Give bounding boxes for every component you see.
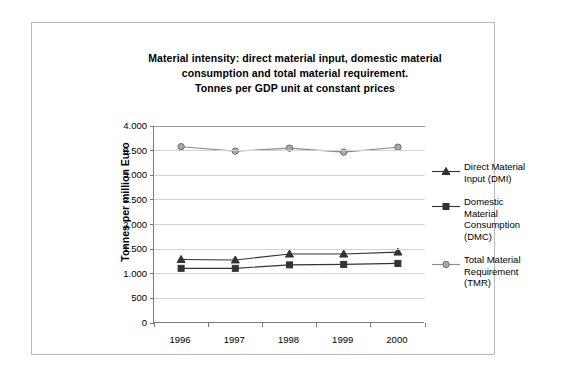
y-axis-tick-labels: 05001.0001.5002.0002.5003.0003.5004.000 [93,126,147,323]
x-axis-tick [208,323,209,327]
legend-marker-circle-icon [431,256,461,267]
gridline [154,249,425,250]
y-axis-tick-label: 2.000 [123,220,147,230]
legend-entry[interactable]: Total Material Requirement (TMR) [431,254,527,289]
data-point-marker [178,265,184,271]
y-axis-tick [150,150,154,151]
x-axis-tick-label: 1999 [323,334,363,345]
legend-marker-triangle-icon [431,163,461,174]
y-axis-tick-label: 3.500 [123,146,147,156]
chart-title-line-3: Tonnes per GDP unit at constant prices [72,81,518,96]
chart-frame: Material intensity: direct material inpu… [31,22,495,355]
y-axis-tick-label: 500 [131,293,147,303]
data-point-marker [178,143,184,149]
y-axis-tick-label: 3.000 [123,170,147,180]
x-axis-tick [154,323,155,327]
gridline [154,224,425,225]
y-axis-tick [150,175,154,176]
series-2 [178,260,401,271]
x-axis-tick-label: 1997 [214,334,254,345]
y-axis-tick-label: 1.000 [123,269,147,279]
legend-label: Direct Material Input (DMI) [464,161,527,184]
gridline [154,273,425,274]
series-1 [177,248,402,263]
x-axis-tick [262,323,263,327]
plot-area [153,126,424,323]
x-axis-tick-labels: 19961997199819992000 [153,334,433,348]
chart-title-line-1: Material intensity: direct material inpu… [72,51,518,66]
gridline [154,126,425,127]
x-axis-tick-label: 2000 [377,334,417,345]
legend-label: Total Material Requirement (TMR) [464,254,527,289]
data-point-marker [232,265,238,271]
data-point-marker [287,262,293,268]
gridline [154,199,425,200]
x-axis-tick [425,323,426,327]
y-axis-tick-label: 4.000 [123,121,147,131]
y-axis-tick-label: 0 [142,318,147,328]
x-axis-tick [370,323,371,327]
y-axis-tick [150,224,154,225]
y-axis-tick [150,199,154,200]
x-axis-tick-label: 1998 [269,334,309,345]
y-axis-tick [150,126,154,127]
y-axis-tick [150,273,154,274]
y-axis-tick-label: 2.500 [123,195,147,205]
gridline [154,150,425,151]
y-axis-title-container: Tonnes per million Euro [76,126,92,323]
legend-label: Domestic Material Consumption (DMC) [464,196,527,242]
data-point-marker [395,260,401,266]
x-axis-tick-label: 1996 [160,334,200,345]
gridline [154,298,425,299]
chart-legend: Direct Material Input (DMI)Domestic Mate… [431,161,527,301]
chart-title-line-2: consumption and total material requireme… [72,66,518,81]
data-point-marker [341,261,347,267]
y-axis-tick-label: 1.500 [123,244,147,254]
legend-entry[interactable]: Domestic Material Consumption (DMC) [431,196,527,242]
gridline [154,175,425,176]
chart-title: Material intensity: direct material inpu… [72,51,518,96]
legend-marker-square-icon [431,198,461,209]
y-axis-tick [150,298,154,299]
y-axis-tick [150,249,154,250]
x-axis-tick [316,323,317,327]
legend-entry[interactable]: Direct Material Input (DMI) [431,161,527,184]
